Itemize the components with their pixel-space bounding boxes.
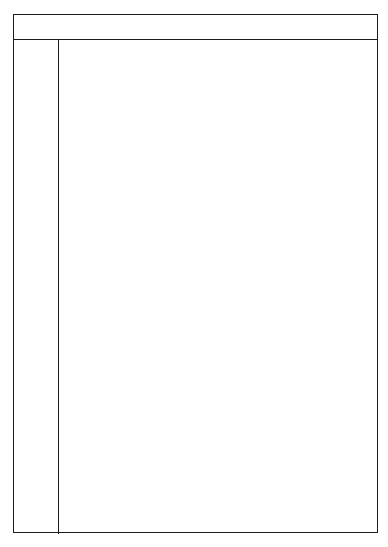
hour-axis-header	[14, 15, 377, 40]
daylight-chart	[13, 14, 378, 533]
plot-area	[59, 40, 377, 532]
band-svg	[59, 40, 377, 532]
month-date-gutter	[14, 40, 59, 534]
